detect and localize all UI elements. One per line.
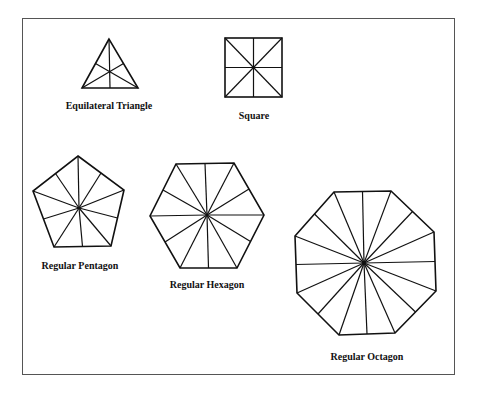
triangle-label: Equilateral Triangle <box>66 100 153 111</box>
pentagon-radius <box>54 208 79 247</box>
octagon-apothem <box>364 262 435 264</box>
pentagon-radius <box>33 191 79 208</box>
octagon-apothem <box>364 212 413 264</box>
octagon-label: Regular Octagon <box>331 351 404 362</box>
pentagon-radius <box>79 208 111 246</box>
hexagon-apothem <box>207 215 209 268</box>
octagon-radius <box>334 192 364 263</box>
octagon-apothem <box>364 263 416 312</box>
pentagon-apothem <box>56 174 80 209</box>
pentagon-radius <box>78 156 79 208</box>
hexagon-apothem <box>205 164 207 216</box>
pentagon-radius <box>79 190 124 208</box>
hexagon-apothem <box>207 215 251 242</box>
square: Square <box>225 38 282 121</box>
regular-hexagon: Regular Hexagon <box>150 163 264 290</box>
equilateral-triangle: Equilateral Triangle <box>66 39 153 111</box>
octagon-radius <box>295 236 364 263</box>
octagon-apothem <box>363 192 365 264</box>
octagon-radius <box>339 263 364 335</box>
hexagon-radius <box>207 215 237 268</box>
pentagon-label: Regular Pentagon <box>42 260 119 271</box>
regular-pentagon: Regular Pentagon <box>33 156 124 271</box>
octagon-apothem <box>315 214 365 263</box>
octagon-apothem <box>364 263 367 334</box>
square-label: Square <box>239 110 270 121</box>
pentagon-apothem <box>79 173 101 208</box>
octagon-apothem <box>318 263 364 314</box>
hexagon-radius <box>150 215 207 216</box>
octagon-radius <box>297 263 364 293</box>
pentagon-apothem <box>79 208 118 218</box>
hexagon-label: Regular Hexagon <box>170 279 245 290</box>
regular-octagon: Regular Octagon <box>295 191 436 362</box>
pentagon-apothem <box>79 208 83 247</box>
hexagon-apothem <box>163 190 207 215</box>
polygon-diagram: Equilateral Triangle Square Regular Pent… <box>0 0 478 398</box>
triangle-median <box>109 39 110 88</box>
hexagon-radius <box>176 164 207 215</box>
hexagon-radius <box>180 215 207 268</box>
octagon-apothem <box>296 263 364 265</box>
